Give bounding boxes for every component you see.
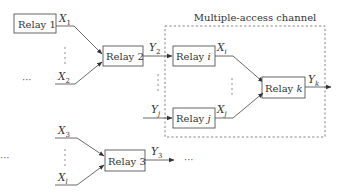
signal-x1-label: X1 — [58, 12, 71, 27]
relay-j-node: Relay j — [173, 108, 215, 128]
x3-to-relay-3-wire — [55, 138, 104, 156]
mac-title: Multiple-access channel — [194, 12, 317, 23]
signal-x3-label: X3 — [57, 124, 70, 139]
signal-y3-label: Y3 — [151, 145, 162, 160]
signal-x2-label: X2 — [57, 70, 70, 85]
signal-xi-label: Xi — [216, 41, 227, 56]
signal-yk-label: Yk — [308, 73, 319, 88]
relay-k-node: Relay k — [262, 77, 305, 98]
signal-xj-label: Xj — [216, 103, 227, 118]
horizontal-ellipsis-bottom-right: ··· — [184, 154, 194, 165]
x1-to-relay-2-wire — [56, 26, 102, 54]
relay-3-label: Relay 3 — [108, 156, 146, 167]
vertical-ellipsis-middle-left — [157, 74, 158, 90]
horizontal-ellipsis-bottom-left: ··· — [0, 152, 10, 163]
relay-3-node: Relay 3 — [105, 150, 146, 171]
relay-2-label: Relay 2 — [106, 51, 144, 62]
relay-1-label: Relay 1 — [18, 19, 56, 30]
relay-network-diagram: Multiple-access channel Relay 1 X1 ··· X… — [0, 0, 348, 194]
vertical-ellipsis-left-bottom — [64, 149, 65, 165]
xi-to-relay-k-wire — [215, 56, 263, 82]
signal-xl-label: Xl — [57, 171, 68, 186]
signal-yj-label: Yj — [151, 103, 161, 118]
vertical-ellipsis-left-top — [64, 47, 65, 63]
relay-k-label: Relay k — [265, 83, 303, 94]
vertical-ellipsis-middle-right — [231, 78, 232, 94]
relay-2-node: Relay 2 — [103, 46, 144, 66]
horizontal-ellipsis-left: ··· — [22, 74, 32, 85]
relay-i-label: Relay i — [176, 51, 211, 62]
relay-j-label: Relay j — [176, 113, 211, 124]
relay-i-node: Relay i — [173, 46, 215, 66]
signal-y2-label: Y2 — [149, 41, 160, 56]
relay-1-node: Relay 1 — [14, 14, 56, 33]
